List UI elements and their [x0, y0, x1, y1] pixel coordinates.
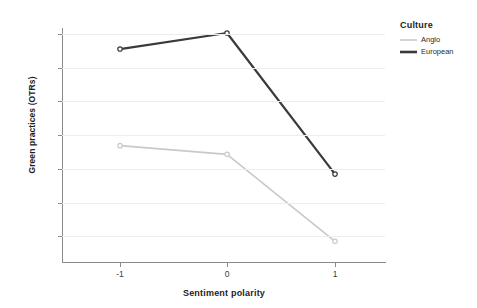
gridline	[62, 135, 385, 136]
x-tick-mark	[120, 263, 121, 267]
data-point-european	[333, 172, 337, 176]
chart-screenshot: ,10 ,09 ,08 ,07 ,06 ,05 ,04 -1 0 1 Green…	[0, 0, 477, 308]
gridline	[62, 203, 385, 204]
y-axis-title: Green practices (OTRs)	[27, 45, 37, 205]
x-tick-label: 0	[212, 269, 242, 279]
gridline	[62, 169, 385, 170]
series-markers-anglo	[118, 143, 337, 243]
gridline	[62, 236, 385, 237]
data-point-european	[118, 47, 122, 51]
plot-area	[62, 28, 385, 262]
gridline	[62, 68, 385, 69]
series-layer	[62, 28, 385, 262]
x-tick-label: -1	[105, 269, 135, 279]
gridline	[62, 101, 385, 102]
legend-swatch-anglo	[400, 37, 417, 43]
x-tick-mark	[335, 263, 336, 267]
legend-item-european[interactable]: European	[400, 47, 477, 56]
data-point-anglo	[118, 143, 122, 147]
series-line-anglo	[120, 146, 335, 242]
x-tick-mark	[227, 263, 228, 267]
x-axis-title: Sentiment polarity	[62, 288, 386, 298]
data-point-anglo	[225, 152, 229, 156]
legend-title: Culture	[400, 20, 477, 30]
legend: Culture Anglo European	[400, 20, 477, 59]
legend-item-anglo[interactable]: Anglo	[400, 35, 477, 44]
gridline	[62, 34, 385, 35]
x-tick-label: 1	[320, 269, 350, 279]
data-point-anglo	[333, 239, 337, 243]
x-axis-line	[62, 262, 386, 263]
legend-swatch-european	[400, 49, 417, 55]
legend-label-european: European	[421, 47, 454, 56]
legend-label-anglo: Anglo	[421, 35, 440, 44]
